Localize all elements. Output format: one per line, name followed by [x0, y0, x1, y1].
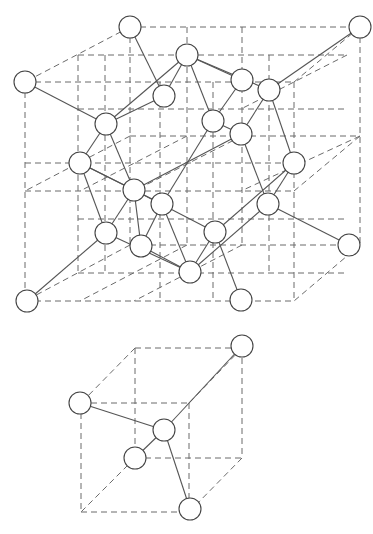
atom-circle	[230, 123, 252, 145]
atom-circle	[153, 85, 175, 107]
atom-circle	[230, 289, 252, 311]
bond-line	[268, 204, 349, 245]
main-cell-atoms	[14, 16, 371, 312]
atom-circle	[349, 16, 371, 38]
atom-circle	[179, 498, 201, 520]
atom-circle	[231, 335, 253, 357]
atom-circle	[231, 69, 253, 91]
atom-circle	[153, 419, 175, 441]
atom-circle	[16, 290, 38, 312]
bond-line	[27, 233, 106, 301]
bond-line	[25, 82, 106, 124]
atom-circle	[176, 44, 198, 66]
atom-circle	[257, 193, 279, 215]
bond-line	[164, 346, 242, 430]
atom-circle	[95, 222, 117, 244]
bond-line	[164, 430, 190, 509]
lattice-line	[25, 245, 130, 301]
atom-circle	[283, 152, 305, 174]
bond-line	[269, 90, 294, 163]
atom-circle	[69, 392, 91, 414]
bond-line	[269, 27, 360, 90]
atom-circle	[130, 235, 152, 257]
atom-circle	[179, 261, 201, 283]
tetrahedral-unit-atoms	[69, 335, 253, 520]
atom-circle	[258, 79, 280, 101]
bond-line	[134, 190, 215, 232]
atom-circle	[124, 447, 146, 469]
atom-circle	[69, 152, 91, 174]
lattice-line	[81, 348, 135, 403]
bond-line	[215, 163, 294, 232]
atom-circle	[119, 16, 141, 38]
lattice-line	[25, 27, 130, 82]
atom-circle	[151, 193, 173, 215]
atom-circle	[202, 110, 224, 132]
bond-line	[80, 403, 164, 430]
atom-circle	[95, 113, 117, 135]
atom-circle	[14, 71, 36, 93]
atom-circle	[123, 179, 145, 201]
bond-line	[190, 204, 268, 272]
atom-circle	[204, 221, 226, 243]
atom-circle	[338, 234, 360, 256]
bond-line	[106, 55, 187, 124]
diamond-unit-cell	[0, 0, 373, 534]
diagram-canvas	[0, 0, 373, 534]
